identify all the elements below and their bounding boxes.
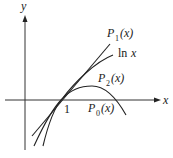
label-p0: P [87, 101, 96, 115]
y-axis-arrow-icon [23, 15, 28, 22]
taylor-polynomial-diagram: y x 1 P 1 (x) ln x P 2 (x) P 0 (x) [0, 0, 173, 158]
label-ln-arg: x [130, 46, 137, 60]
tick-label-1: 1 [64, 102, 70, 116]
label-p1: P [106, 26, 115, 40]
label-p1-subscript: 1 [115, 34, 119, 43]
x-axis-arrow-icon [154, 98, 161, 103]
label-p2: P [97, 71, 106, 85]
curve-p2 [43, 86, 126, 146]
label-p2-arg: (x) [111, 71, 124, 85]
y-axis-label: y [20, 0, 27, 13]
label-p0-arg: (x) [101, 101, 114, 115]
x-axis-label: x [162, 93, 169, 107]
curve-p1 [32, 44, 110, 136]
label-p2-subscript: 2 [106, 79, 110, 88]
label-p0-subscript: 0 [96, 109, 100, 118]
label-ln: ln [118, 46, 127, 60]
label-p1-arg: (x) [120, 26, 133, 40]
